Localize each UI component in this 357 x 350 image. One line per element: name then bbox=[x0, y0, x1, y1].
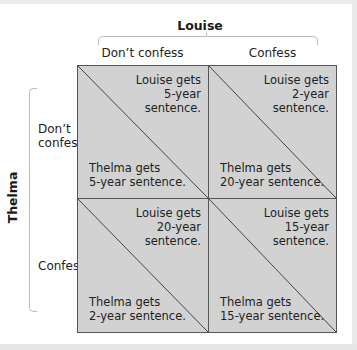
cell-dont-dont: Louise gets 5-year sentence. Thelma gets… bbox=[78, 66, 208, 198]
louise-outcome: Louise gets 20-year sentence. bbox=[136, 206, 201, 248]
cell-dont-confess: Louise gets 2-year sentence. Thelma gets… bbox=[209, 66, 336, 198]
cell-confess-confess: Louise gets 15-year sentence. Thelma get… bbox=[209, 199, 336, 332]
thelma-outcome: Thelma gets 15-year sentence. bbox=[220, 295, 324, 323]
column-label-confess: Confess bbox=[208, 46, 337, 60]
row-player-title: Thelma bbox=[5, 168, 20, 228]
cell-confess-dont: Louise gets 20-year sentence. Thelma get… bbox=[78, 199, 208, 332]
right-edge bbox=[352, 0, 357, 350]
louise-outcome: Louise gets 5-year sentence. bbox=[136, 73, 201, 115]
column-brace bbox=[98, 36, 318, 45]
thelma-outcome: Thelma gets 2-year sentence. bbox=[89, 295, 186, 323]
thelma-outcome: Thelma gets 20-year sentence. bbox=[220, 161, 324, 189]
grid-horizontal-divider bbox=[78, 198, 336, 199]
louise-outcome: Louise gets 2-year sentence. bbox=[264, 73, 329, 115]
louise-outcome: Louise gets 15-year sentence. bbox=[264, 206, 329, 248]
bottom-edge bbox=[0, 344, 357, 350]
thelma-outcome: Thelma gets 5-year sentence. bbox=[89, 161, 186, 189]
payoff-matrix: Louise gets 5-year sentence. Thelma gets… bbox=[77, 65, 337, 333]
grid-vertical-divider bbox=[208, 66, 209, 332]
row-brace bbox=[29, 88, 37, 312]
column-label-dont-confess: Don’t confess bbox=[77, 46, 208, 60]
column-player-title: Louise bbox=[90, 18, 310, 33]
